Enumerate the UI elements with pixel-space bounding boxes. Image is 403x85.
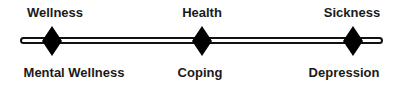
label-health: Health [182,6,222,19]
label-mental-wellness: Mental Wellness [24,66,125,79]
label-wellness: Wellness [27,6,83,19]
label-sickness: Sickness [324,6,380,19]
label-depression: Depression [309,66,380,79]
label-coping: Coping [178,66,223,79]
